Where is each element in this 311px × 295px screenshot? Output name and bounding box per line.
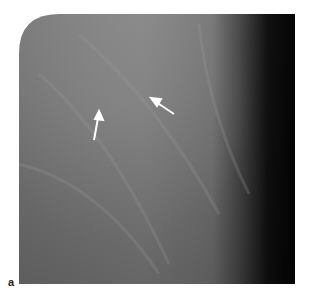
panel-label: a bbox=[8, 276, 14, 288]
mammogram-image bbox=[19, 14, 295, 284]
